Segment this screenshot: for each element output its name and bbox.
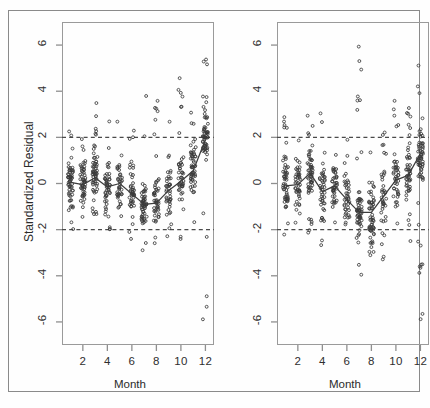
- data-point: [356, 108, 359, 111]
- data-point: [294, 221, 297, 224]
- data-point: [421, 312, 424, 315]
- data-point: [306, 114, 309, 117]
- data-point: [417, 240, 420, 243]
- caption-fragment-strip: [0, 396, 430, 408]
- data-point: [205, 58, 208, 61]
- data-point: [205, 235, 208, 238]
- data-point: [82, 201, 85, 204]
- data-point: [382, 185, 385, 188]
- data-point: [380, 243, 383, 246]
- data-point: [92, 152, 95, 155]
- data-point: [346, 138, 349, 141]
- data-point: [393, 99, 396, 102]
- data-point: [68, 130, 71, 133]
- y-axis-title-left: Standardized Residual: [22, 121, 36, 242]
- data-point: [323, 168, 326, 171]
- data-point: [205, 305, 208, 308]
- data-point: [201, 318, 204, 321]
- data-point: [178, 77, 181, 80]
- data-point: [105, 203, 108, 206]
- x-axis-tick-label: 8: [146, 355, 166, 367]
- data-point: [189, 144, 192, 147]
- data-point: [283, 120, 286, 123]
- y-axis-tick-label: -2: [251, 218, 263, 238]
- data-point: [295, 200, 298, 203]
- data-point: [320, 203, 323, 206]
- data-point: [141, 249, 144, 252]
- data-point: [80, 138, 83, 141]
- data-point: [348, 190, 351, 193]
- data-point: [153, 214, 156, 217]
- data-point: [92, 199, 95, 202]
- data-point: [321, 162, 324, 165]
- data-point: [91, 207, 94, 210]
- data-point: [360, 205, 363, 208]
- data-point: [202, 95, 205, 98]
- data-point: [381, 258, 384, 261]
- data-point: [129, 163, 132, 166]
- data-point: [357, 241, 360, 244]
- data-point: [153, 133, 156, 136]
- data-point: [334, 153, 337, 156]
- data-point: [194, 138, 197, 141]
- data-point: [331, 195, 334, 198]
- data-point: [170, 223, 173, 226]
- data-point: [405, 194, 408, 197]
- y-axis-tick-label: 0: [36, 172, 48, 192]
- data-point: [182, 208, 185, 211]
- data-point: [331, 206, 334, 209]
- data-point: [356, 95, 359, 98]
- data-point: [178, 132, 181, 135]
- data-point: [67, 162, 70, 165]
- data-point: [321, 239, 324, 242]
- data-point: [81, 145, 84, 148]
- data-point: [393, 114, 396, 117]
- data-point: [104, 213, 107, 216]
- data-point: [70, 134, 73, 137]
- data-point: [409, 240, 412, 243]
- data-point: [181, 95, 184, 98]
- data-point: [130, 160, 133, 163]
- data-point: [154, 118, 157, 121]
- y-axis-tick-label: -4: [36, 264, 48, 284]
- data-point: [381, 232, 384, 235]
- data-point: [128, 231, 131, 234]
- data-point: [154, 236, 157, 239]
- data-point: [190, 111, 193, 114]
- data-point: [409, 115, 412, 118]
- y-axis-tick-label: 2: [36, 125, 48, 145]
- data-point: [355, 237, 358, 240]
- data-point: [107, 147, 110, 150]
- data-point: [116, 120, 119, 123]
- data-point: [298, 212, 301, 215]
- y-axis-tick-label: -6: [251, 310, 263, 330]
- data-point: [419, 244, 422, 247]
- x-axis-title-right: Month: [329, 378, 361, 390]
- x-axis-tick-label: 10: [386, 355, 406, 367]
- data-point: [334, 221, 337, 224]
- x-axis-title-left: Month: [114, 378, 146, 390]
- data-point: [67, 209, 70, 212]
- plot-canvas-right: [215, 0, 430, 408]
- data-point: [285, 141, 288, 144]
- data-point: [131, 223, 134, 226]
- data-point: [153, 207, 156, 210]
- data-point: [307, 183, 310, 186]
- data-point: [348, 209, 351, 212]
- data-point: [320, 244, 323, 247]
- x-axis-tick-label: 4: [312, 355, 332, 367]
- y-axis-tick-label: -4: [251, 264, 263, 284]
- data-point: [71, 147, 74, 150]
- data-point: [343, 175, 346, 178]
- data-point: [368, 181, 371, 184]
- x-axis-tick-label: 6: [337, 355, 357, 367]
- data-point: [294, 203, 297, 206]
- data-point: [392, 195, 395, 198]
- data-point: [284, 163, 287, 166]
- y-axis-tick-label: 6: [251, 33, 263, 53]
- data-point: [193, 221, 196, 224]
- data-point: [357, 263, 360, 266]
- x-axis-tick-label: 4: [97, 355, 117, 367]
- median-trace-line: [286, 154, 421, 213]
- data-point: [205, 295, 208, 298]
